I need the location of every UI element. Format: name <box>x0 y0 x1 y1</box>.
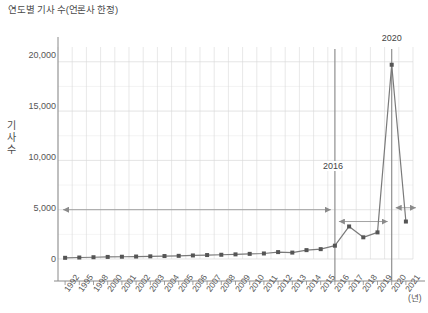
data-point-2011 <box>262 251 266 255</box>
data-point-2002 <box>134 255 138 259</box>
data-point-1992 <box>63 256 67 260</box>
data-point-2008 <box>219 253 223 257</box>
data-point-2012 <box>276 250 280 254</box>
annotation-label-2020: 2020 <box>381 33 403 43</box>
data-point-2005 <box>177 254 181 258</box>
chart-container: 연도별 기사 수(언론사 한정) 기 사 수 0 5,000 10,000 15… <box>0 0 428 313</box>
data-point-2020 <box>390 63 394 67</box>
data-point-2014 <box>305 248 309 252</box>
x-axis-unit-label: (년) <box>408 291 422 303</box>
data-point-1995 <box>77 256 81 260</box>
data-point-2001 <box>120 255 124 259</box>
annotation-label-2016: 2016 <box>322 161 344 171</box>
data-point-2016 <box>333 244 337 248</box>
data-point-2013 <box>290 251 294 255</box>
data-point-2017 <box>347 224 351 228</box>
data-point-2015 <box>319 247 323 251</box>
data-point-2018 <box>361 235 365 239</box>
axes <box>54 37 425 285</box>
data-point-2009 <box>234 252 238 256</box>
data-point-2000 <box>106 255 110 259</box>
data-point-2010 <box>248 252 252 256</box>
data-point-2019 <box>376 230 380 234</box>
data-point-2004 <box>163 254 167 258</box>
data-line <box>65 65 406 258</box>
data-point-1998 <box>92 255 96 259</box>
data-point-2006 <box>191 253 195 257</box>
gridlines <box>58 47 413 259</box>
data-point-2021 <box>404 220 408 224</box>
data-point-2003 <box>148 254 152 258</box>
plot-area <box>0 0 428 313</box>
data-point-2007 <box>205 253 209 257</box>
